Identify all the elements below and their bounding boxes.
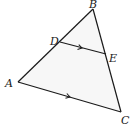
triangle-diagram: B D E A C	[0, 0, 130, 129]
label-e: E	[108, 52, 117, 65]
label-c: C	[121, 114, 130, 127]
label-b: B	[88, 0, 97, 11]
label-a: A	[4, 77, 13, 90]
label-d: D	[49, 35, 59, 48]
